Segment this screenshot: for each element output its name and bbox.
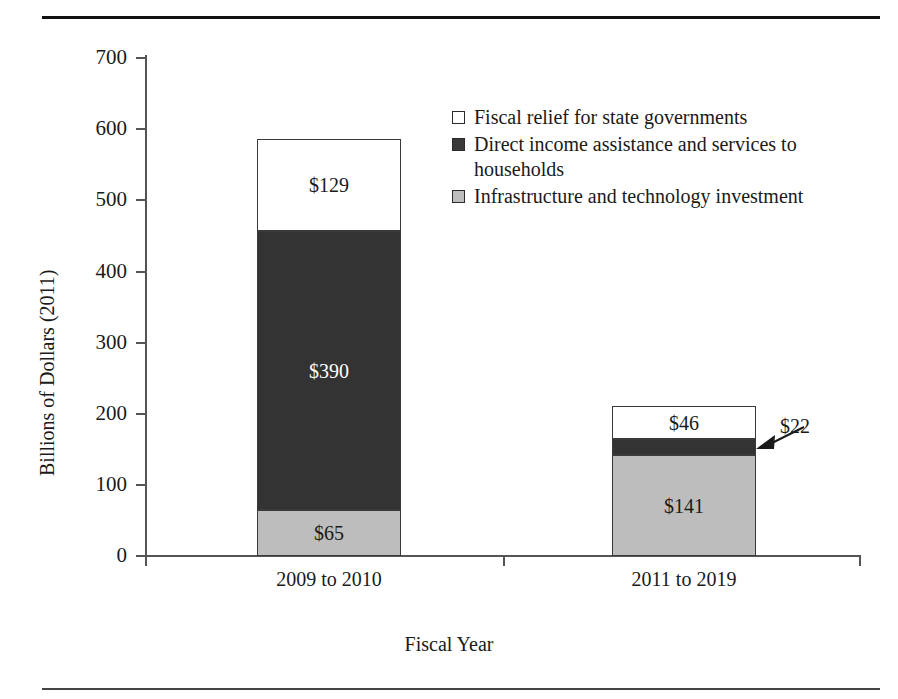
y-tickmark-300 — [136, 342, 145, 344]
y-tick-100: 100 — [96, 472, 128, 497]
bar-segment-fiscal-relief-2011[interactable]: $46 — [612, 406, 756, 439]
callout-label-22: $22 — [780, 415, 810, 438]
y-tickmark-600 — [136, 128, 145, 130]
y-tick-300: 300 — [96, 330, 128, 355]
y-tick-0: 0 — [117, 543, 128, 568]
bottom-rule — [42, 688, 880, 690]
bar-value-label: $390 — [309, 361, 349, 381]
y-tick-500: 500 — [96, 187, 128, 212]
x-tickmark-right — [859, 555, 861, 566]
y-axis-line — [145, 55, 147, 556]
y-tickmark-400 — [136, 271, 145, 273]
y-axis-tick-labels: 700 600 500 400 300 200 100 0 — [0, 0, 145, 699]
legend-label: Infrastructure and technology investment — [474, 184, 872, 209]
bar-value-label: $141 — [664, 496, 704, 516]
bar-value-label: $65 — [314, 523, 344, 543]
y-tick-600: 600 — [96, 116, 128, 141]
legend-item-direct-income[interactable]: Direct income assistance and services to… — [452, 132, 872, 182]
y-tickmark-700 — [136, 57, 145, 59]
bar-segment-direct-income-2009[interactable]: $390 — [257, 231, 401, 510]
y-tick-200: 200 — [96, 401, 128, 426]
bar-value-label: $46 — [669, 413, 699, 433]
y-tickmark-500 — [136, 199, 145, 201]
x-tickmark-left — [145, 555, 147, 566]
y-tickmark-0 — [136, 555, 145, 557]
bar-value-label: $129 — [309, 175, 349, 195]
x-category-label-2011-2019: 2011 to 2019 — [632, 568, 737, 591]
legend: Fiscal relief for state governments Dire… — [452, 105, 872, 211]
legend-item-infrastructure[interactable]: Infrastructure and technology investment — [452, 184, 872, 209]
bar-segment-infrastructure-2009[interactable]: $65 — [257, 510, 401, 556]
y-tick-700: 700 — [96, 45, 128, 70]
legend-swatch-white-icon — [452, 111, 465, 124]
y-tickmark-200 — [136, 413, 145, 415]
bar-segment-direct-income-2011[interactable]: $22 — [612, 439, 756, 455]
legend-swatch-dark-icon — [452, 138, 465, 151]
legend-label: Direct income assistance and services to… — [474, 132, 872, 182]
bar-segment-fiscal-relief-2009[interactable]: $129 — [257, 139, 401, 231]
x-tickmark-mid — [503, 555, 505, 566]
top-rule — [42, 16, 880, 19]
legend-swatch-light-icon — [452, 190, 465, 203]
legend-item-fiscal-relief[interactable]: Fiscal relief for state governments — [452, 105, 872, 130]
y-tickmark-100 — [136, 484, 145, 486]
bar-segment-infrastructure-2011[interactable]: $141 — [612, 455, 756, 556]
y-tick-400: 400 — [96, 259, 128, 284]
legend-label: Fiscal relief for state governments — [474, 105, 872, 130]
x-category-label-2009-2010: 2009 to 2010 — [276, 568, 382, 591]
x-axis-title: Fiscal Year — [0, 633, 898, 656]
